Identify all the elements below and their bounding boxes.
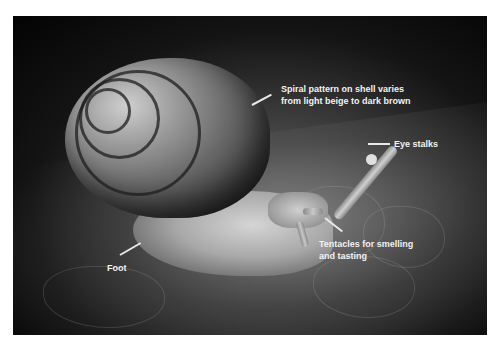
snail-shell — [65, 58, 270, 218]
tentacle — [303, 208, 323, 215]
label-tentacles: Tentacles for smelling and tasting — [319, 238, 413, 262]
label-shell: Spiral pattern on shell varies from ligh… — [281, 83, 411, 107]
shell-whorl — [85, 88, 131, 134]
eye-tip — [366, 154, 377, 165]
label-eye-stalks: Eye stalks — [394, 138, 438, 150]
label-foot: Foot — [107, 262, 127, 274]
leader-line-eye-stalks — [368, 143, 390, 145]
snail-photo: Spiral pattern on shell varies from ligh… — [13, 16, 487, 335]
